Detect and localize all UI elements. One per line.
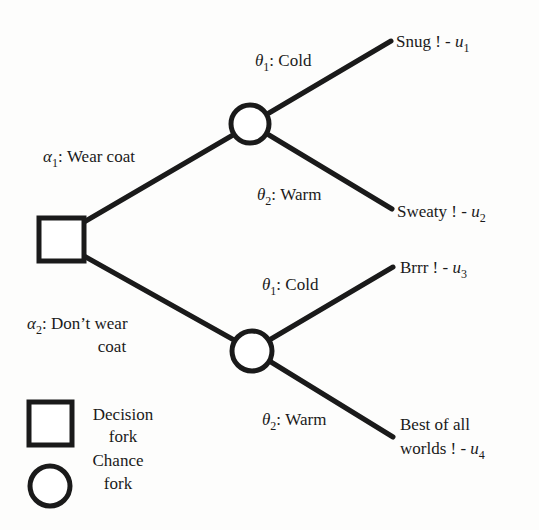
chance-fork-node-dont-wear-coat bbox=[232, 331, 272, 371]
legend-chance-line2: fork bbox=[104, 474, 133, 493]
chance-fork-node-wear-coat bbox=[231, 105, 269, 143]
result-best-of-all-worlds-u4: worlds ! - u4 bbox=[400, 439, 485, 462]
outcome-label-warm-2: θ2: Warm bbox=[262, 410, 326, 433]
result-snug-u1: Snug ! - u1 bbox=[396, 32, 470, 55]
result-best-of-all-worlds-line1: Best of all bbox=[400, 415, 470, 434]
action-label-dont-wear-coat: α2: Don’t wear bbox=[27, 314, 128, 337]
decision-fork-node bbox=[39, 218, 84, 261]
result-brrr-u3: Brrr ! - u3 bbox=[400, 258, 467, 281]
result-sweaty-u2: Sweaty ! - u2 bbox=[397, 202, 486, 225]
outcome-label-warm-1: θ2: Warm bbox=[257, 185, 321, 208]
action-label-dont-wear-coat-line2: coat bbox=[98, 337, 127, 356]
action-label-wear-coat: α1: Wear coat bbox=[43, 147, 135, 170]
legend-circle-icon bbox=[30, 466, 70, 506]
outcome-label-cold-1: θ1: Cold bbox=[255, 51, 312, 74]
legend-decision-line1: Decision bbox=[93, 405, 154, 424]
legend-square-icon bbox=[29, 402, 72, 445]
legend-decision-line2: fork bbox=[109, 427, 138, 446]
legend: Decision fork Chance fork bbox=[29, 402, 154, 506]
legend-chance-line1: Chance bbox=[93, 451, 144, 470]
decision-tree-diagram: α1: Wear coat α2: Don’t wear coat θ1: Co… bbox=[0, 0, 539, 530]
outcome-label-cold-2: θ1: Cold bbox=[262, 275, 319, 298]
